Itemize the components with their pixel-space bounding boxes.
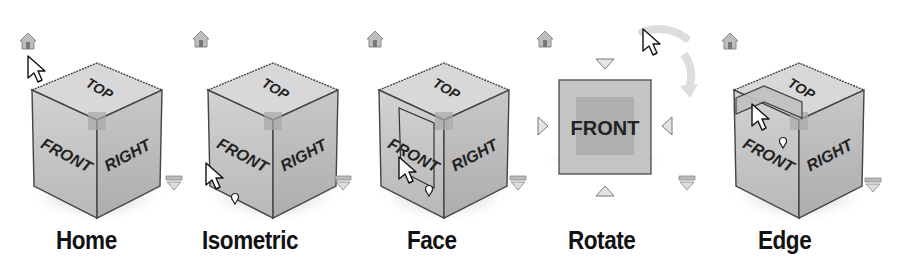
state-label: Edge <box>758 226 811 255</box>
home-icon[interactable] <box>537 31 554 48</box>
cursor-icon <box>399 157 419 185</box>
roll-arrow-down-icon[interactable] <box>595 185 615 197</box>
state-label: Home <box>56 226 117 255</box>
viewcube-home-panel: Home <box>0 0 190 272</box>
roll-arrow-right-icon[interactable] <box>661 116 673 136</box>
viewcube-edge-panel: Edge <box>700 0 906 272</box>
state-label: Isometric <box>202 226 298 255</box>
viewcube[interactable] <box>198 38 348 228</box>
orbit-icon <box>424 185 434 197</box>
viewcube-isometric-panel: Isometric <box>180 0 360 272</box>
viewcube[interactable] <box>369 38 519 228</box>
roll-arrow-left-icon[interactable] <box>537 116 549 136</box>
orbit-icon <box>230 193 240 205</box>
cursor-icon <box>643 29 663 57</box>
menu-arrow-icon[interactable] <box>865 178 881 194</box>
viewcube-face-panel: Face <box>355 0 535 272</box>
cursor-icon <box>206 163 226 191</box>
viewcube[interactable] <box>724 38 874 228</box>
cursor-icon <box>28 56 48 84</box>
svg-text:FRONT: FRONT <box>571 117 640 139</box>
cursor-icon <box>752 104 772 132</box>
roll-arrow-up-icon[interactable] <box>595 58 615 70</box>
state-label: Rotate <box>568 226 635 255</box>
menu-arrow-icon[interactable] <box>679 176 695 192</box>
state-label: Face <box>407 226 456 255</box>
viewcube-front-face[interactable]: FRONT <box>546 55 676 195</box>
menu-arrow-icon[interactable] <box>335 176 351 192</box>
orbit-icon <box>778 137 788 149</box>
viewcube-rotate-panel: FRONT Rotate <box>520 0 710 272</box>
